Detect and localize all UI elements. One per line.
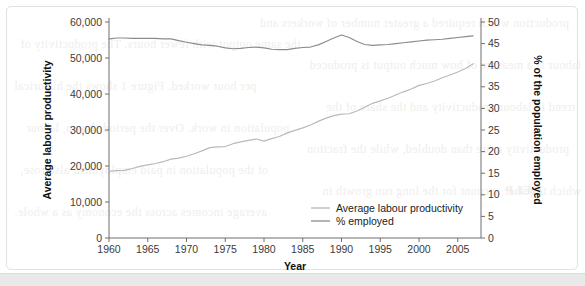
left-axis-ticks: 010,00020,00030,00040,00050,00060,000 [70, 16, 109, 244]
right-axis-title: % of the population employed [532, 55, 544, 204]
left-tick-label: 40,000 [70, 88, 102, 100]
right-tick-label: 35 [488, 80, 500, 92]
right-tick-label: 45 [488, 37, 500, 49]
left-tick-label: 20,000 [70, 160, 102, 172]
x-tick-label: 2000 [407, 243, 431, 255]
left-axis-title: Average labour productivity [41, 60, 53, 199]
left-tick-label: 60,000 [70, 16, 102, 28]
x-axis-ticks: 1960196519701975198019851990199520002005 [97, 238, 469, 255]
series-line-productivity [109, 64, 473, 172]
right-axis: 05101520253035404550 % of the population… [481, 16, 544, 244]
right-tick-label: 30 [488, 102, 500, 114]
x-tick-label: 1980 [252, 243, 276, 255]
chart-plot-area: 010,00020,00030,00040,00050,00060,000 Av… [0, 0, 585, 286]
left-axis: 010,00020,00030,00040,00050,00060,000 Av… [41, 16, 109, 244]
x-tick-label: 1970 [175, 243, 199, 255]
x-tick-label: 1985 [291, 243, 315, 255]
chart-series-layer [109, 35, 473, 171]
figure-root: production which required a greater numb… [0, 0, 585, 286]
right-tick-label: 10 [488, 188, 500, 200]
right-tick-label: 20 [488, 145, 500, 157]
x-axis-title: Year [284, 260, 306, 272]
legend-label: % employed [336, 215, 394, 227]
x-tick-label: 1990 [330, 243, 354, 255]
left-tick-label: 30,000 [70, 124, 102, 136]
right-tick-label: 50 [488, 16, 500, 28]
x-tick-label: 1960 [97, 243, 121, 255]
left-tick-label: 50,000 [70, 52, 102, 64]
left-tick-label: 0 [96, 232, 102, 244]
x-tick-label: 1995 [369, 243, 393, 255]
left-tick-label: 10,000 [70, 196, 102, 208]
right-tick-label: 15 [488, 167, 500, 179]
right-tick-label: 25 [488, 124, 500, 136]
x-tick-label: 2005 [446, 243, 470, 255]
right-axis-ticks: 05101520253035404550 [481, 16, 500, 244]
right-tick-label: 40 [488, 59, 500, 71]
x-axis: 1960196519701975198019851990199520002005… [97, 238, 481, 272]
chart-legend: Average labour productivity% employed [311, 202, 464, 227]
page-bottom-band [0, 274, 585, 286]
x-tick-label: 1965 [136, 243, 160, 255]
right-tick-label: 5 [488, 210, 494, 222]
legend-label: Average labour productivity [336, 202, 464, 214]
x-tick-label: 1975 [214, 243, 238, 255]
right-tick-label: 0 [488, 232, 494, 244]
chart-svg: 010,00020,00030,00040,00050,00060,000 Av… [0, 0, 585, 286]
series-line-employed [109, 35, 473, 50]
